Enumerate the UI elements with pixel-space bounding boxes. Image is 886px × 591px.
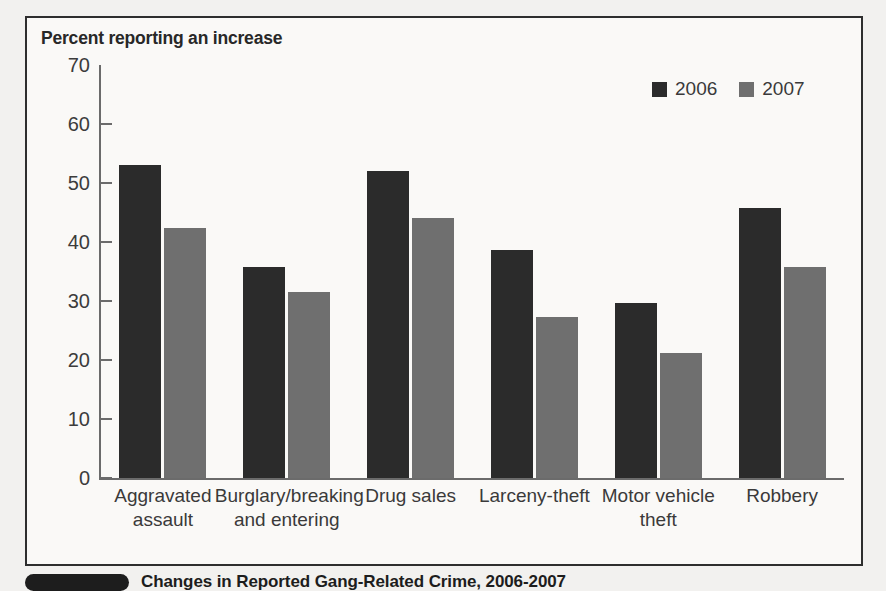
x-axis-label-line: theft bbox=[586, 508, 730, 532]
x-axis-label-line: Drug sales bbox=[339, 484, 483, 508]
caption-pill-icon bbox=[25, 574, 129, 591]
caption-text: Changes in Reported Gang-Related Crime, … bbox=[141, 572, 566, 591]
bar-2006-2 bbox=[367, 171, 409, 478]
x-axis-label-line: Robbery bbox=[710, 484, 854, 508]
bar-2006-5 bbox=[739, 208, 781, 478]
x-axis-label-2: Drug sales bbox=[339, 484, 483, 508]
bar-2007-3 bbox=[536, 317, 578, 478]
y-tick-label: 0 bbox=[79, 467, 90, 490]
y-tick-label: 30 bbox=[68, 290, 90, 313]
bar-2006-1 bbox=[243, 267, 285, 478]
x-axis-label-0: Aggravatedassault bbox=[91, 484, 235, 532]
x-axis-category-labels: AggravatedassaultBurglary/breakingand en… bbox=[101, 484, 846, 554]
x-axis-label-line: Aggravated bbox=[91, 484, 235, 508]
x-axis-label-5: Robbery bbox=[710, 484, 854, 508]
page-title: Percent reporting an increase bbox=[41, 28, 282, 49]
x-axis-label-4: Motor vehicletheft bbox=[586, 484, 730, 532]
plot-area: 010203040506070 bbox=[99, 65, 844, 480]
bars-layer bbox=[101, 65, 844, 478]
x-axis-label-line: and entering bbox=[215, 508, 359, 532]
x-axis-label-1: Burglary/breakingand entering bbox=[215, 484, 359, 532]
x-axis-label-line: Motor vehicle bbox=[586, 484, 730, 508]
figure-caption: Changes in Reported Gang-Related Crime, … bbox=[25, 572, 865, 591]
bar-2007-2 bbox=[412, 218, 454, 478]
y-tick-label: 50 bbox=[68, 172, 90, 195]
bar-2007-0 bbox=[164, 228, 206, 478]
x-axis-label-3: Larceny-theft bbox=[463, 484, 607, 508]
bar-group-0 bbox=[101, 65, 225, 478]
x-axis-label-line: assault bbox=[91, 508, 235, 532]
bar-2007-4 bbox=[660, 353, 702, 478]
bar-2006-0 bbox=[119, 165, 161, 478]
x-axis-line bbox=[99, 478, 844, 480]
y-tick-label: 70 bbox=[68, 54, 90, 77]
y-tick-label: 60 bbox=[68, 113, 90, 136]
bar-2007-1 bbox=[288, 292, 330, 478]
bar-2007-5 bbox=[784, 267, 826, 478]
y-tick-label: 10 bbox=[68, 408, 90, 431]
bar-group-3 bbox=[473, 65, 597, 478]
y-tick-label: 40 bbox=[68, 231, 90, 254]
bar-group-4 bbox=[596, 65, 720, 478]
chart-figure-frame: Percent reporting an increase 20062007 0… bbox=[25, 16, 863, 566]
x-axis-label-line: Burglary/breaking bbox=[215, 484, 359, 508]
y-tick-label: 20 bbox=[68, 349, 90, 372]
bar-2006-4 bbox=[615, 303, 657, 478]
bar-group-5 bbox=[720, 65, 844, 478]
bar-group-1 bbox=[225, 65, 349, 478]
bar-group-2 bbox=[349, 65, 473, 478]
x-axis-label-line: Larceny-theft bbox=[463, 484, 607, 508]
bar-2006-3 bbox=[491, 250, 533, 478]
